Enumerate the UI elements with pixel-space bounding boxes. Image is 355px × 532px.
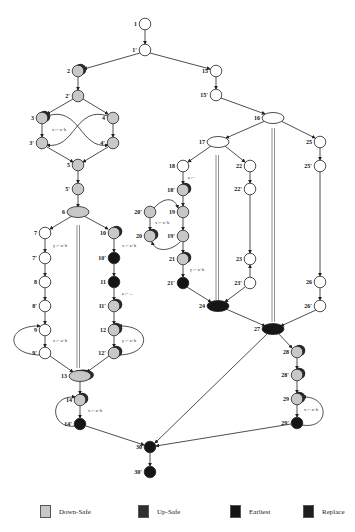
node-label: 18' — [167, 187, 175, 193]
node-19-prime: 19' — [167, 230, 188, 242]
node-2-prime: 2' — [65, 90, 83, 102]
assignment-annotation: x := a+b — [155, 220, 169, 225]
node-21: 21 — [169, 252, 191, 265]
assignment-annotation: a := ... — [122, 291, 133, 296]
node-label: 2' — [65, 93, 70, 99]
node-label: 3 — [31, 115, 34, 121]
node-25: 25 — [306, 136, 326, 148]
node-label: 9 — [34, 327, 37, 333]
node-label: 25' — [304, 163, 312, 169]
node-8-prime: 8' — [32, 300, 50, 312]
legend-item: Down-Safe — [40, 505, 91, 518]
edges — [14, 30, 323, 466]
assignment-annotation: a := — [188, 175, 195, 180]
node-label: 10' — [98, 255, 106, 261]
node-label: 3' — [29, 140, 34, 146]
assignment-annotation: y := a+b — [190, 267, 204, 272]
node-28: 28 — [283, 345, 305, 358]
node-10: 10 — [100, 226, 122, 239]
node-label: 19 — [169, 209, 175, 215]
legend-label: Up-Safe — [157, 508, 180, 516]
node-20-prime: 20' — [134, 206, 155, 218]
node-3: 3 — [31, 111, 50, 124]
assignment-annotation: x := a+b — [53, 338, 67, 343]
node-14: 14 — [66, 393, 88, 406]
node-28-prime: 28' — [281, 368, 305, 381]
node-label: 8 — [34, 279, 37, 285]
legend-swatch — [138, 505, 149, 518]
node-15-prime: 15' — [200, 89, 221, 101]
node-label: 18 — [169, 163, 175, 169]
node-label: 13 — [61, 373, 67, 379]
node-label: 19' — [167, 233, 175, 239]
node-label: 24 — [199, 303, 205, 309]
node-label: 23 — [236, 256, 242, 262]
node-18: 18 — [169, 160, 189, 172]
node-4: 4 — [102, 112, 119, 124]
node-label: 5 — [67, 162, 70, 168]
node-21-prime: 21' — [167, 277, 188, 289]
node-19: 19 — [169, 206, 189, 218]
node-11: 11 — [100, 276, 119, 288]
node-label: 8' — [32, 303, 37, 309]
node-16: 16 — [254, 113, 284, 124]
node-29-prime: 29' — [281, 417, 302, 429]
node-label: 28' — [281, 372, 289, 378]
node-4-prime: 4' — [100, 137, 118, 149]
node-5-prime: 5' — [65, 183, 83, 195]
node-22: 22 — [236, 160, 256, 172]
node-10-prime: 10' — [98, 252, 119, 264]
legend: Down-SafeUp-SafeEarliestReplace — [0, 505, 355, 525]
node-30-prime: 30' — [134, 466, 155, 478]
node-25-prime: 25' — [304, 160, 325, 172]
node-label: 6 — [62, 209, 65, 215]
node-13: 13 — [61, 370, 94, 382]
node-12: 12 — [100, 323, 122, 336]
node-23-prime: 23' — [234, 277, 255, 289]
node-12-prime: 12' — [98, 346, 122, 359]
node-label: 12' — [98, 350, 106, 356]
node-label: 26' — [304, 303, 312, 309]
node-label: 23' — [234, 280, 242, 286]
node-8: 8 — [34, 276, 51, 288]
node-3-prime: 3' — [29, 137, 47, 149]
legend-label: Down-Safe — [59, 508, 91, 516]
node-label: 27 — [254, 326, 260, 332]
assignment-annotation: x := a+b — [304, 407, 318, 412]
node-14-prime: 14' — [64, 418, 85, 430]
node-label: 20 — [136, 233, 142, 239]
node-label: 21' — [167, 280, 175, 286]
assignment-annotation: x := a+b — [122, 243, 136, 248]
node-6: 6 — [62, 207, 89, 218]
legend-label: Replace — [322, 508, 345, 516]
assignment-annotation: y := a+b — [53, 243, 67, 248]
legend-item: Up-Safe — [138, 505, 180, 518]
legend-item: Earliest — [230, 505, 270, 518]
node-label: 11' — [99, 303, 107, 309]
node-label: 26 — [306, 279, 312, 285]
node-22-prime: 22' — [234, 183, 255, 195]
node-label: 15 — [202, 68, 208, 74]
legend-swatch — [230, 505, 241, 518]
node-label: 29 — [283, 396, 289, 402]
node-9-prime: 9' — [32, 347, 50, 359]
node-7-prime: 7' — [32, 252, 50, 264]
assignment-annotation: x := a+b — [52, 127, 66, 132]
node-27: 27 — [254, 324, 284, 335]
legend-item: Replace — [303, 505, 345, 518]
node-26: 26 — [306, 276, 326, 288]
node-label: 7 — [34, 230, 37, 236]
node-label: 2 — [67, 68, 70, 74]
node-label: 7' — [32, 255, 37, 261]
flow-graph: 11'22'33'44'55'677'88'99'1010'1111'1212'… — [0, 0, 355, 500]
node-label: 1' — [132, 47, 137, 53]
node-label: 1 — [134, 21, 137, 27]
node-23: 23 — [236, 253, 256, 265]
node-7: 7 — [34, 227, 51, 239]
node-11-prime: 11' — [99, 299, 123, 312]
legend-swatch — [303, 505, 314, 518]
node-label: 10 — [100, 230, 106, 236]
node-label: 29' — [281, 420, 289, 426]
legend-swatch — [40, 505, 51, 518]
node-label: 4 — [102, 115, 105, 121]
